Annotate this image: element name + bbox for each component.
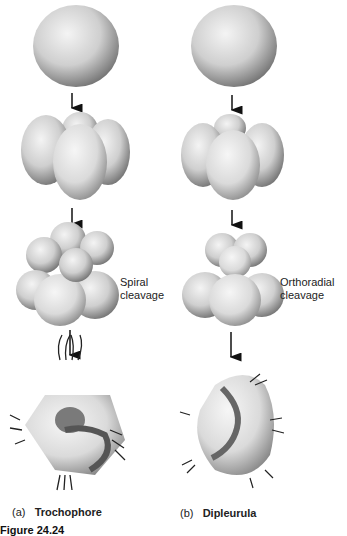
label-line-1: Spiral [120, 276, 164, 289]
caption-letter: (a) [12, 506, 25, 518]
zygote-a [33, 5, 119, 87]
caption-name: Dipleurula [203, 507, 257, 519]
spiral-cleavage-label: Spiral cleavage [120, 276, 164, 302]
trochophore-larva [10, 335, 125, 490]
dipleurula-larva [180, 374, 284, 488]
caption-name: Trochophore [35, 506, 102, 518]
caption-b: (b) Dipleurula [180, 507, 256, 519]
label-line-1: Orthoradial [280, 276, 334, 289]
zygote-b [191, 5, 277, 87]
orthoradial-cleavage-label: Orthoradial cleavage [280, 276, 334, 302]
four-cell-a [21, 112, 130, 200]
figure-caption-partial: Figure 24.24 [0, 524, 64, 536]
four-cell-b [181, 114, 284, 200]
caption-a: (a) Trochophore [12, 506, 102, 518]
spiral-8-cell [16, 222, 119, 326]
caption-letter: (b) [180, 507, 193, 519]
label-line-2: cleavage [120, 289, 164, 302]
label-line-2: cleavage [280, 289, 334, 302]
orthoradial-8-cell [182, 233, 284, 326]
